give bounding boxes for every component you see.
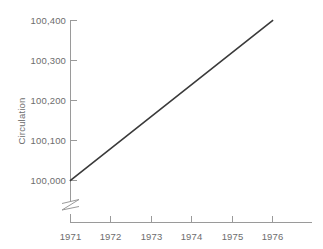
y-tick-label-100400: 100,400: [31, 15, 66, 26]
y-tick-label-100200: 100,200: [31, 95, 66, 106]
x-tick-label-1971: 1971: [60, 231, 82, 242]
circulation-line-chart: 100,400 100,300 100,200 100,100 100,000 …: [0, 0, 323, 249]
x-tick-label-1976: 1976: [262, 231, 284, 242]
x-tick-label-1973: 1973: [141, 231, 163, 242]
x-tick-label-1972: 1972: [100, 231, 122, 242]
y-axis-break-icon: [62, 200, 79, 211]
y-tick-marks: [71, 21, 78, 181]
x-tick-marks: [71, 216, 273, 223]
data-series-circulation: [71, 21, 273, 181]
y-tick-label-100000: 100,000: [31, 175, 66, 186]
x-tick-labels: 1971 1972 1973 1974 1975 1976: [60, 231, 284, 242]
chart-canvas: 100,400 100,300 100,200 100,100 100,000 …: [0, 0, 323, 249]
y-tick-label-100300: 100,300: [31, 55, 66, 66]
x-tick-label-1974: 1974: [181, 231, 203, 242]
y-axis-title: Circulation: [16, 97, 27, 144]
x-tick-label-1975: 1975: [222, 231, 244, 242]
y-tick-labels: 100,400 100,300 100,200 100,100 100,000: [31, 15, 66, 186]
y-tick-label-100100: 100,100: [31, 135, 66, 146]
